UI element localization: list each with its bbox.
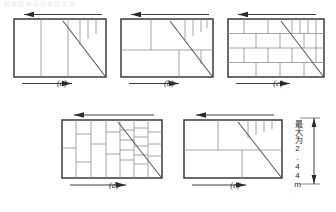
- panel-e: (e): [180, 110, 290, 194]
- panel-b-diagonal: [170, 21, 212, 76]
- panel-d-caption: (d): [58, 180, 170, 190]
- panel-d: (d): [58, 110, 170, 194]
- panel-d-inner-joints: [62, 120, 162, 178]
- panel-e-caption: (e): [180, 180, 290, 190]
- panel-b: (b): [117, 10, 221, 90]
- cut-off-header-text: 砌体结构设计规范应用: [4, 1, 128, 8]
- dimension-annotation: 最大为2.44m: [292, 112, 336, 204]
- panel-b-inner-joints: [121, 19, 213, 77]
- panel-d-frame: [62, 120, 162, 178]
- panel-c-diagonal: [281, 21, 323, 76]
- panel-b-frame: [121, 19, 213, 77]
- top-arrow-left: [238, 12, 316, 17]
- arrowhead-up: [312, 118, 317, 127]
- top-arrow-left: [74, 112, 154, 117]
- panel-a-diagonal: [63, 21, 105, 76]
- panel-a-caption: (a): [10, 78, 114, 88]
- panel-e-inner-joints: [184, 120, 282, 178]
- panel-e-diagonal: [238, 122, 281, 177]
- top-arrow-left: [196, 112, 274, 117]
- dimension-label: 最大为2.44m: [293, 120, 301, 186]
- figure-canvas: 砌体结构设计规范应用: [0, 0, 336, 212]
- panel-c: (c): [224, 10, 332, 90]
- top-arrow-left: [131, 12, 209, 17]
- panel-a: (a): [10, 10, 114, 90]
- panel-c-caption: (c): [224, 78, 332, 88]
- panel-d-diagonal: [118, 122, 161, 177]
- panel-a-frame: [14, 19, 106, 77]
- arrowhead-down: [312, 175, 317, 184]
- panel-b-caption: (b): [117, 78, 221, 88]
- top-arrow-left: [24, 12, 102, 17]
- panel-e-frame: [184, 120, 282, 178]
- panel-c-inner-joints: [228, 19, 324, 77]
